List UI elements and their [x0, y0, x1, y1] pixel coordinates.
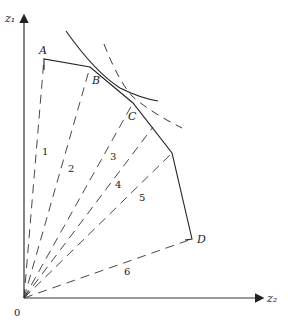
diagram-canvas: z₁ z₂ 0 A B C D 1 2 3 4 5 6	[0, 0, 289, 321]
ray-4-label: 4	[115, 179, 121, 190]
ray-2	[24, 67, 90, 298]
ray-5	[24, 153, 172, 298]
ray-3-label: 3	[110, 151, 116, 162]
point-a-label: A	[38, 44, 47, 57]
origin-label: 0	[14, 307, 20, 318]
ray-6	[24, 239, 192, 298]
ray-6-label: 6	[124, 266, 130, 277]
diagram-svg: z₁ z₂ 0 A B C D 1 2 3 4 5 6	[0, 0, 289, 321]
z2-axis-label: z₂	[266, 292, 277, 305]
indifference-curve	[66, 31, 158, 101]
ray-5-label: 5	[139, 192, 145, 203]
point-c-label: C	[128, 110, 137, 123]
ray-1-label: 1	[42, 146, 48, 157]
ray-3	[24, 103, 133, 298]
point-d-label: D	[196, 233, 206, 246]
z1-axis-label: z₁	[4, 12, 15, 25]
ray-2-label: 2	[68, 163, 74, 174]
point-b-label: B	[91, 74, 100, 87]
